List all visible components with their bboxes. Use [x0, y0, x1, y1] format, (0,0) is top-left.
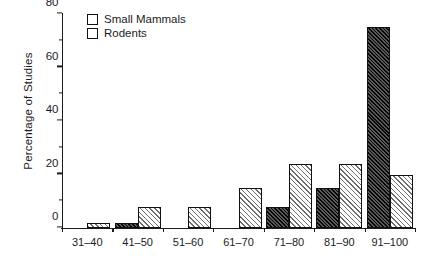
y-tick-label: 20	[46, 157, 59, 169]
x-tick-mark	[62, 228, 63, 232]
bar	[87, 223, 110, 228]
bar	[138, 207, 161, 228]
plot-area: 020406080 31–4041–5051–6061–7071–8081–90…	[62, 14, 415, 228]
y-tick-mark	[57, 119, 62, 120]
y-tick-mark-minor	[59, 39, 62, 40]
legend-label-rodents: Rodents	[104, 27, 147, 39]
y-tick-label: 80	[46, 0, 59, 8]
x-tick-mark	[415, 228, 416, 232]
bar	[115, 223, 138, 228]
x-tick-mark	[264, 228, 265, 232]
legend-swatch-rodents	[87, 28, 98, 39]
y-tick-mark-minor	[59, 146, 62, 147]
x-tick-mark	[213, 228, 214, 232]
x-tick-label: 81–90	[324, 236, 355, 248]
y-tick-mark-minor	[59, 199, 62, 200]
y-axis-title: Percentage of Studies	[22, 26, 34, 196]
x-tick-label: 31–40	[72, 236, 103, 248]
y-tick-label: 0	[52, 210, 58, 222]
y-tick-mark	[57, 173, 62, 174]
bar	[339, 164, 362, 228]
legend-item-small-mammals: Small Mammals	[87, 13, 186, 25]
bar	[239, 188, 262, 228]
chart-figure: Percentage of Studies 020406080 31–4041–…	[0, 0, 426, 270]
x-tick-label: 71–80	[274, 236, 305, 248]
y-tick-mark	[57, 12, 62, 13]
x-tick-mark	[314, 228, 315, 232]
bar	[390, 175, 413, 229]
bar	[266, 207, 289, 228]
x-tick-label: 41–50	[122, 236, 153, 248]
bar	[367, 27, 390, 228]
bar	[289, 164, 312, 228]
x-tick-label: 51–60	[173, 236, 204, 248]
bar	[188, 207, 211, 228]
y-tick-label: 40	[46, 103, 59, 115]
x-tick-mark	[163, 228, 164, 232]
y-tick-mark	[57, 66, 62, 67]
legend-item-rodents: Rodents	[87, 27, 186, 39]
x-tick-label: 91–100	[371, 236, 408, 248]
x-tick-label: 61–70	[223, 236, 254, 248]
bar	[316, 188, 339, 228]
y-tick-label: 60	[46, 50, 59, 62]
legend-swatch-small-mammals	[87, 14, 98, 25]
y-tick-mark-minor	[59, 92, 62, 93]
chart-legend: Small Mammals Rodents	[87, 13, 186, 41]
x-tick-mark	[365, 228, 366, 232]
legend-label-small-mammals: Small Mammals	[104, 13, 186, 25]
x-axis-line	[61, 228, 416, 229]
x-tick-mark	[112, 228, 113, 232]
